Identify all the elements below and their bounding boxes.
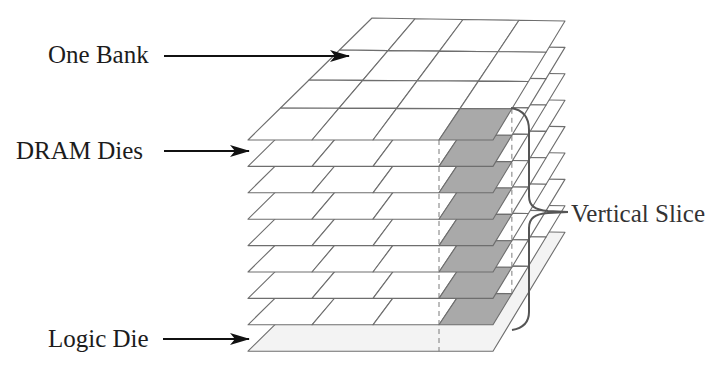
dram-dies-label: DRAM Dies — [16, 138, 143, 163]
logic-die-label: Logic Die — [48, 326, 149, 351]
die-stack — [248, 18, 565, 351]
vertical-slice-label: Vertical Slice — [571, 201, 705, 226]
one-bank-label: One Bank — [48, 42, 149, 67]
